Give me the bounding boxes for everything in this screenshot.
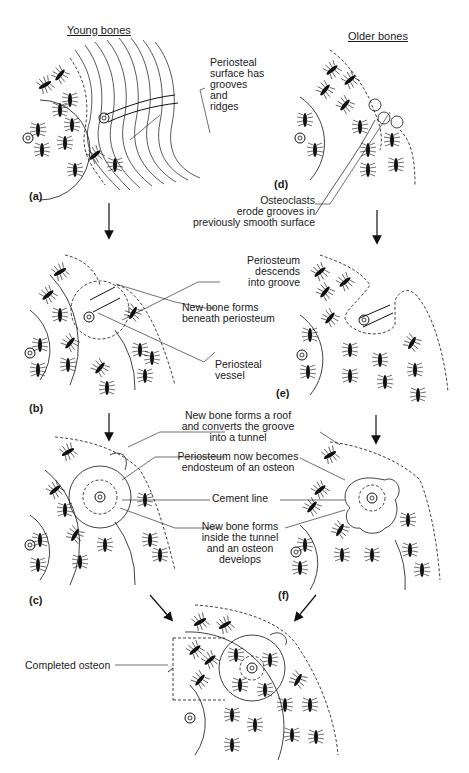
label-osteoclasts: Osteoclasts erode grooves in previously … <box>175 195 315 228</box>
label-completed-osteon: Completed osteon <box>25 660 110 671</box>
label-line: develops <box>190 554 290 565</box>
panel-label-c: (c) <box>29 594 42 606</box>
label-line: previously smooth surface <box>175 217 315 228</box>
label-line: beneath periosteum <box>182 313 275 324</box>
label-line: into a tunnel <box>168 432 308 443</box>
panel-a-illustration <box>40 38 200 200</box>
panel-label-e: (e) <box>276 387 289 399</box>
panel-b-illustration <box>30 255 175 390</box>
panel-e-illustration <box>300 255 448 395</box>
panel-label-f: (f) <box>278 589 289 601</box>
label-new-bone-inside-tunnel: New bone forms inside the tunnel and an … <box>190 521 290 565</box>
label-line: vessel <box>215 370 262 381</box>
panel-label-d: (d) <box>274 178 288 190</box>
label-new-bone-roof: New bone forms a roof and converts the g… <box>168 410 308 443</box>
label-periosteal-vessel: Periosteal vessel <box>215 359 262 381</box>
label-line: endosteum of an osteon <box>168 462 308 473</box>
arrow-f-to-complete <box>297 595 316 618</box>
panel-d-illustration <box>300 50 415 215</box>
young-bones-title: Young bones <box>67 24 131 36</box>
label-line: into groove <box>240 277 300 288</box>
label-periosteum-descends: Periosteum descends into groove <box>240 255 300 288</box>
label-new-bone-beneath-periosteum: New bone forms beneath periosteum <box>182 302 275 324</box>
label-cement-line: Cement line <box>205 493 275 504</box>
panel-label-a: (a) <box>29 190 42 202</box>
label-periosteal-surface: Periosteal surface has grooves and ridge… <box>210 57 264 112</box>
completed-osteon-illustration <box>168 605 338 760</box>
panel-label-b: (b) <box>29 402 43 414</box>
older-bones-title: Older bones <box>348 30 408 42</box>
label-line: ridges <box>210 101 264 112</box>
label-periosteum-endosteum: Periosteum now becomes endosteum of an o… <box>168 451 308 473</box>
arrow-c-to-complete <box>150 595 170 618</box>
diagram-canvas <box>0 0 469 773</box>
panel-c-illustration <box>30 437 175 585</box>
